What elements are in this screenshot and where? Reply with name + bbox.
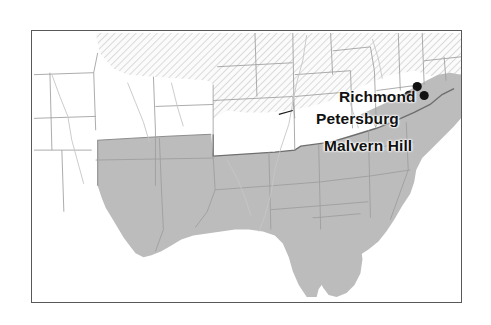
map-frame: Richmond Petersburg Malvern Hill	[31, 30, 462, 303]
united-states-map	[32, 31, 461, 302]
map-screenshot: Richmond Petersburg Malvern Hill	[0, 0, 491, 325]
petersburg-label: Petersburg	[316, 111, 399, 127]
malvern-hill-marker[interactable]	[420, 91, 429, 100]
kansas-state	[213, 118, 295, 156]
richmond-label: Richmond	[339, 89, 416, 105]
malvern-hill-label: Malvern Hill	[324, 138, 412, 154]
